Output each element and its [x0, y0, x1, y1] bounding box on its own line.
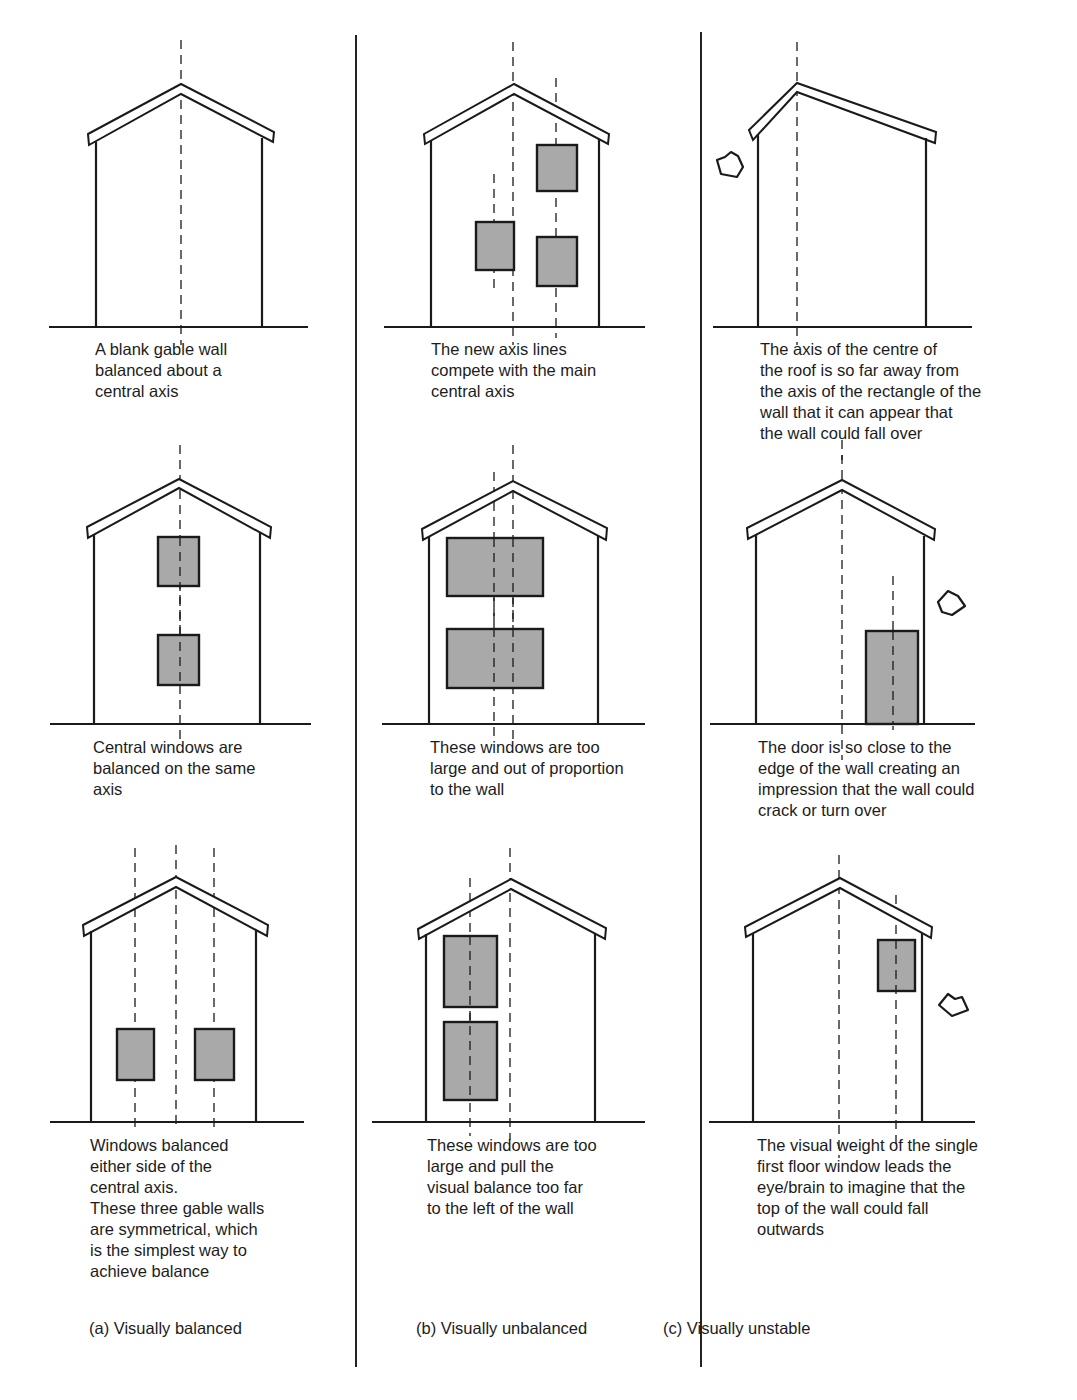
panel-b2-oversized-windows [382, 445, 645, 745]
panel-c3-single-window [709, 855, 975, 1158]
roof [418, 879, 606, 939]
door [866, 631, 918, 724]
column-label-c: (c) Visually unstable [663, 1318, 810, 1339]
panel-c2-door-near-edge [710, 455, 975, 760]
caption-a3: Windows balanced either side of the cent… [90, 1135, 264, 1282]
tipping-arrow-icon [717, 152, 743, 177]
tipping-arrow-icon [939, 994, 968, 1016]
tipping-arrow-icon [938, 591, 965, 615]
panel-a3-windows-either-side [50, 845, 304, 1128]
roof [747, 480, 935, 540]
caption-b2: These windows are too large and out of p… [430, 737, 624, 800]
roof [422, 481, 607, 540]
panel-b3-windows-pulled-left [372, 848, 645, 1140]
window-upper [158, 537, 199, 586]
caption-a2: Central windows are balanced on the same… [93, 737, 255, 800]
panel-a2-central-windows [50, 445, 311, 740]
caption-b3: These windows are too large and pull the… [427, 1135, 597, 1219]
roof [424, 84, 609, 144]
column-label-b: (b) Visually unbalanced [416, 1318, 587, 1339]
caption-c2: The door is so close to the edge of the … [758, 737, 974, 821]
window-lower [158, 635, 199, 685]
window-upper [447, 538, 543, 596]
column-label-a: (a) Visually balanced [89, 1318, 242, 1339]
window-left [476, 222, 514, 270]
column-divider-2 [700, 32, 702, 1367]
caption-a1: A blank gable wall balanced about a cent… [95, 339, 227, 402]
panel-a1-blank-gable [49, 40, 308, 345]
caption-b1: The new axis lines compete with the main… [431, 339, 596, 402]
window-left [117, 1029, 154, 1080]
panel-b1-competing-axes [384, 42, 645, 345]
clipped-figure-caption [0, 1394, 1077, 1400]
caption-c1: The axis of the centre of the roof is so… [760, 339, 981, 444]
roof [749, 83, 936, 143]
window-upper-right [537, 145, 577, 191]
caption-c3: The visual weight of the single first fl… [757, 1135, 978, 1240]
window-lower-right [537, 237, 577, 286]
roof [87, 479, 271, 538]
window-right [195, 1029, 234, 1080]
column-divider-1 [355, 35, 357, 1367]
window-lower [447, 629, 543, 688]
